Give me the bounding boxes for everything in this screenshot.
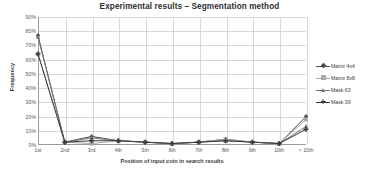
y-tick-label: 10% bbox=[6, 128, 36, 134]
legend-item-label: Mask 63 bbox=[330, 87, 351, 93]
chart-legend: Matrix 4x4Matrix 8x8Mask 63Mask 39 bbox=[316, 60, 378, 108]
x-axis-ticks: 1st2nd3rd4th5th6th7th8th9th10th> 10th bbox=[38, 147, 306, 157]
series-1 bbox=[36, 33, 308, 146]
x-tick-label: 10th bbox=[274, 147, 284, 153]
legend-item-1[interactable]: Matrix 4x4 bbox=[316, 60, 378, 72]
series-line bbox=[38, 54, 306, 144]
legend-item-2[interactable]: Matrix 8x8 bbox=[316, 72, 378, 84]
legend-marker-icon bbox=[316, 62, 330, 70]
x-tick-label: 4th bbox=[115, 147, 122, 153]
x-tick-label: 6th bbox=[168, 147, 175, 153]
series-line bbox=[38, 35, 306, 143]
series-line bbox=[38, 54, 306, 144]
series-2 bbox=[36, 52, 308, 146]
legend-item-label: Matrix 4x4 bbox=[330, 63, 355, 69]
legend-item-label: Mask 39 bbox=[330, 99, 351, 105]
legend-item-4[interactable]: Mask 39 bbox=[316, 96, 378, 108]
legend-marker-icon bbox=[316, 98, 330, 106]
y-tick-label: 80% bbox=[6, 28, 36, 34]
series-4 bbox=[36, 51, 309, 146]
legend-item-3[interactable]: Mask 63 bbox=[316, 84, 378, 96]
legend-item-label: Matrix 8x8 bbox=[330, 75, 355, 81]
y-tick-label: 90% bbox=[6, 14, 36, 20]
series-3 bbox=[36, 35, 308, 146]
x-tick-label: 1st bbox=[35, 147, 42, 153]
chart-title: Experimental results – Segmentation meth… bbox=[0, 2, 379, 11]
chart-container: Experimental results – Segmentation meth… bbox=[0, 0, 379, 182]
y-tick-label: 20% bbox=[6, 114, 36, 120]
series-layer bbox=[38, 17, 306, 145]
x-tick-label: > 10th bbox=[299, 147, 314, 153]
legend-marker-icon bbox=[316, 74, 330, 82]
x-tick-label: 2nd bbox=[60, 147, 69, 153]
data-point-marker bbox=[304, 117, 308, 121]
x-tick-label: 8th bbox=[222, 147, 229, 153]
x-tick-label: 9th bbox=[249, 147, 256, 153]
x-tick-label: 5th bbox=[142, 147, 149, 153]
series-line bbox=[38, 37, 306, 144]
x-tick-label: 7th bbox=[195, 147, 202, 153]
x-tick-label: 3rd bbox=[88, 147, 96, 153]
x-axis-title: Position of input coin in search results bbox=[38, 158, 306, 164]
legend-marker-icon bbox=[316, 86, 330, 94]
y-tick-label: 0% bbox=[6, 142, 36, 148]
gridline-vertical bbox=[307, 17, 308, 144]
y-axis-title: Frequency bbox=[9, 47, 15, 107]
